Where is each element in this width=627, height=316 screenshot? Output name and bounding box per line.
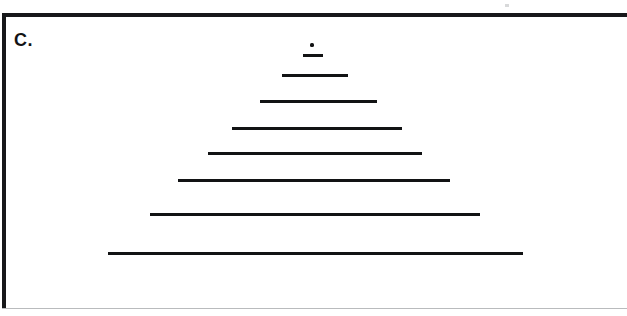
stimulus-line: [232, 127, 402, 130]
stimulus-line: [150, 213, 480, 216]
stimulus-group: [0, 0, 627, 316]
figure-panel: C.: [0, 0, 627, 316]
stimulus-line: [208, 152, 422, 155]
stimulus-line: [260, 100, 377, 103]
stimulus-line: [108, 252, 523, 255]
stimulus-line: [303, 54, 323, 57]
stimulus-line: [178, 179, 450, 182]
stimulus-dot: [310, 43, 314, 47]
stimulus-line: [282, 74, 348, 77]
